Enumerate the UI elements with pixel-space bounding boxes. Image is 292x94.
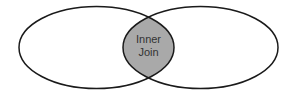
intersection-label-line1: Inner bbox=[123, 33, 174, 46]
intersection-label-line2: Join bbox=[123, 46, 174, 59]
